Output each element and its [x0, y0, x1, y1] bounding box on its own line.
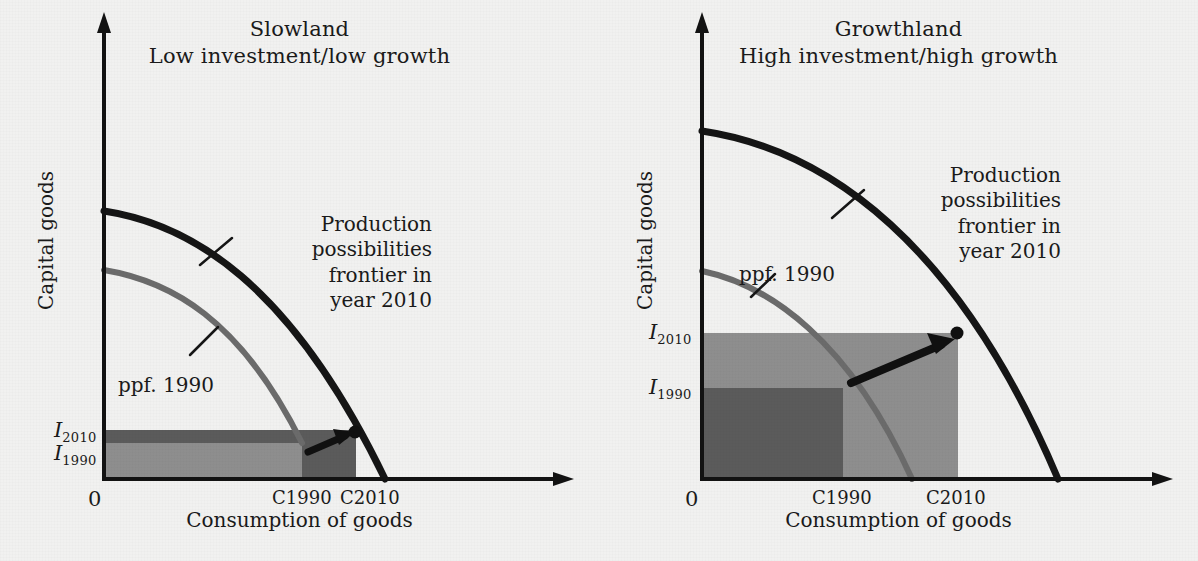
- x-axis-arrowhead: [553, 472, 574, 486]
- y-tick-subscript: 2010: [657, 332, 691, 347]
- y-tick-subscript: 1990: [62, 453, 96, 468]
- y-tick-i-1990-growthland: I1990: [649, 375, 692, 402]
- panel-growthland: Growthland High investment/high growth C…: [599, 0, 1198, 561]
- origin-label-growthland: 0: [685, 487, 698, 511]
- x-tick-subscript: 2010: [940, 487, 986, 508]
- x-tick-symbol: C: [926, 487, 940, 508]
- x-tick-symbol: C: [272, 487, 286, 508]
- panel-title-line2: High investment/high growth: [599, 43, 1198, 70]
- panel-title-line1: Growthland: [835, 17, 963, 41]
- x-tick-c-2010-growthland: C2010: [926, 487, 986, 508]
- annotation-ppf-1990-slowland: ppf. 1990: [118, 373, 214, 398]
- origin-label-slowland: 0: [88, 487, 101, 511]
- frontier-label-line1: Production: [248, 212, 432, 237]
- y-tick-subscript: 1990: [657, 387, 691, 402]
- frontier-label-line2: possibilities: [248, 237, 432, 262]
- y-axis-label-slowland: Capital goods: [34, 171, 58, 310]
- x-axis-label-slowland: Consumption of goods: [0, 508, 599, 532]
- rect-1990-light: [104, 443, 302, 479]
- frontier-label-line1: Production: [877, 163, 1061, 188]
- x-tick-c-1990-slowland: C1990: [272, 487, 332, 508]
- panel-title-growthland: Growthland High investment/high growth: [599, 16, 1198, 71]
- frontier-label-line2: possibilities: [877, 188, 1061, 213]
- panel-slowland: Slowland Low investment/low growth Capit…: [0, 0, 599, 561]
- panel-title-line1: Slowland: [250, 17, 350, 41]
- frontier-label-line3: frontier in: [248, 263, 432, 288]
- annotation-ppf-1990-growthland: ppf. 1990: [739, 262, 835, 287]
- panel-title-slowland: Slowland Low investment/low growth: [0, 16, 599, 71]
- x-tick-c-2010-slowland: C2010: [340, 487, 400, 508]
- growthland-plot: [599, 0, 1198, 561]
- panel-title-line2: Low investment/low growth: [0, 43, 599, 70]
- x-tick-subscript: 1990: [286, 487, 332, 508]
- y-tick-i-2010-growthland: I2010: [649, 320, 692, 347]
- annotation-frontier-2010-slowland: Production possibilities frontier in yea…: [248, 212, 432, 314]
- x-axis-arrowhead: [1152, 472, 1173, 486]
- y-tick-i-1990-slowland: I1990: [54, 441, 97, 468]
- annotation-frontier-2010-growthland: Production possibilities frontier in yea…: [877, 163, 1061, 265]
- x-tick-subscript: 1990: [826, 487, 872, 508]
- production-point-2010: [951, 327, 964, 340]
- x-tick-subscript: 2010: [354, 487, 400, 508]
- frontier-label-line3: frontier in: [877, 214, 1061, 239]
- x-tick-symbol: C: [340, 487, 354, 508]
- x-tick-symbol: C: [812, 487, 826, 508]
- leader-line-ppf-1990: [190, 327, 218, 355]
- frontier-label-line4: year 2010: [248, 288, 432, 313]
- y-axis-label-growthland: Capital goods: [633, 171, 657, 310]
- x-axis-label-growthland: Consumption of goods: [599, 508, 1198, 532]
- ppf-growth-figure: Slowland Low investment/low growth Capit…: [0, 0, 1198, 561]
- frontier-label-line4: year 2010: [877, 239, 1061, 264]
- rect-1990-dark: [702, 388, 843, 479]
- x-tick-c-1990-growthland: C1990: [812, 487, 872, 508]
